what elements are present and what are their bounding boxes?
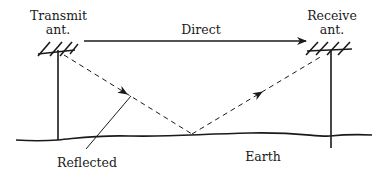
- incident-arrow-icon: [118, 89, 127, 95]
- transmit-label-line2: ant.: [30, 23, 86, 37]
- reflected-path-incident: [64, 55, 192, 134]
- earth-ground-line: [16, 133, 372, 141]
- receive-antenna-icon: [306, 42, 352, 148]
- propagation-diagram: Transmit ant. Receive ant. Direct Reflec…: [0, 0, 374, 177]
- outgoing-arrow-icon: [253, 92, 262, 98]
- transmit-antenna-label: Transmit ant.: [30, 9, 86, 37]
- direct-path-label: Direct: [171, 23, 231, 37]
- reflected-leader-line: [86, 96, 131, 149]
- earth-label: Earth: [238, 150, 288, 164]
- receive-label-line1: Receive: [304, 9, 360, 23]
- receive-antenna-label: Receive ant.: [304, 9, 360, 37]
- transmit-label-line1: Transmit: [30, 9, 86, 23]
- receive-label-line2: ant.: [304, 23, 360, 37]
- transmit-antenna-icon: [38, 42, 78, 140]
- reflected-path-label: Reflected: [54, 156, 120, 170]
